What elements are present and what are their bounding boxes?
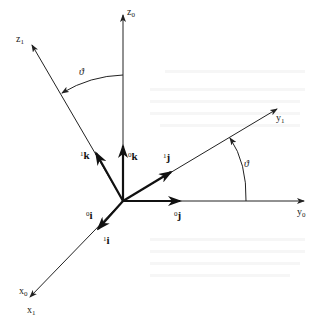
label-x1: x1 (27, 304, 36, 317)
vector-0i (98, 201, 123, 229)
vector-1j (123, 172, 171, 201)
coordinate-frame-diagram: z0 z1 y0 y1 x0 x1 0k 1k 1j 0j 0i 1i ϑ ϑ (0, 0, 322, 328)
axis-labels: z0 z1 y0 y1 x0 x1 (16, 6, 306, 317)
label-1k: 1k (80, 149, 91, 161)
arc-theta-z (62, 75, 123, 93)
label-0i: 0i (86, 209, 93, 221)
label-1i: 1i (103, 234, 110, 246)
label-theta-y: ϑ (244, 158, 250, 169)
vector-1k (96, 153, 123, 201)
arc-theta-y (230, 138, 246, 201)
label-0k: 0k (128, 150, 139, 162)
label-z0: z0 (127, 6, 135, 19)
label-0j: 0j (174, 209, 181, 221)
label-z1: z1 (16, 33, 24, 46)
label-y0: y0 (297, 206, 306, 219)
label-theta-z: ϑ (79, 66, 85, 77)
label-1j: 1j (163, 151, 170, 163)
label-x0: x0 (19, 285, 28, 298)
background-bleed-through (150, 70, 305, 277)
